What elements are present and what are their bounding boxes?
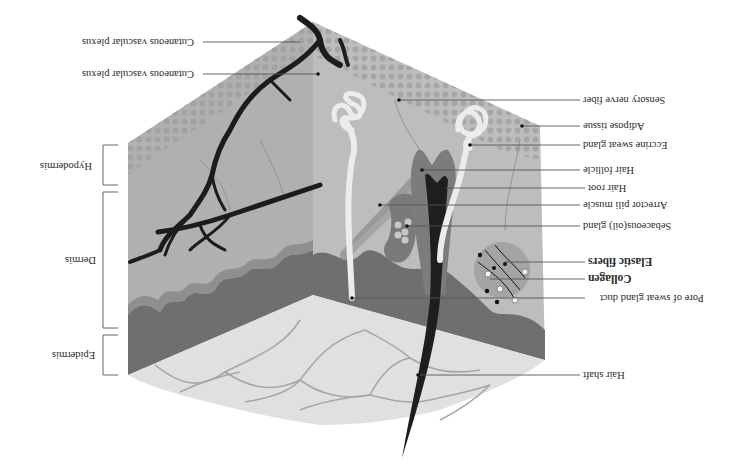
label-cutaneous-vascular-plexus-1: Cutaneous vascular plexus <box>82 36 194 48</box>
label-epidermis: Epidermis <box>52 349 95 361</box>
label-hair-follicle: Hair follicle <box>583 164 634 176</box>
skin-diagram: Cutaneous vascular plexus Cutaneous vasc… <box>0 0 748 476</box>
label-cutaneous-vascular-plexus-2: Cutaneous vascular plexus <box>82 68 194 80</box>
label-hair-shaft: Hair shaft <box>583 369 625 381</box>
label-arrector-pili-muscle: Arrector pili muscle <box>583 199 668 211</box>
layer-brackets <box>103 145 118 375</box>
label-sebaceous-gland: Sebaceous(oil) gland <box>583 220 671 232</box>
label-hair-root: Hair root <box>588 182 626 194</box>
label-eccrine-sweat-gland: Eccrine sweat gland <box>583 139 668 151</box>
label-elastic-fibers: Elastic fibers <box>588 256 652 268</box>
label-adipose-tissue: Adipose tissue <box>583 120 645 132</box>
label-hypodermis: Hypodermis <box>40 160 92 172</box>
label-collagen: Collagen <box>588 273 631 285</box>
label-sensory-nerve-fiber: Sensory nerve fiber <box>583 94 665 106</box>
label-pore-of-sweat-gland-duct: Pore of sweat gland duct <box>600 292 704 304</box>
label-dermis: Dermis <box>65 254 96 266</box>
